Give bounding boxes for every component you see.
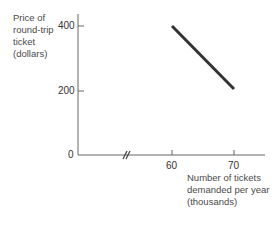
x-axis-label-line: Number of tickets [187, 172, 269, 184]
x-axis-label-line: (thousands) [187, 196, 269, 208]
demand-curve [172, 26, 234, 89]
x-axis-label: Number of tickets demanded per year (tho… [187, 172, 269, 208]
x-axis-label-line: demanded per year [187, 184, 269, 196]
